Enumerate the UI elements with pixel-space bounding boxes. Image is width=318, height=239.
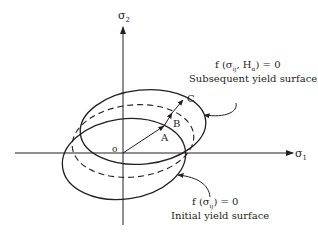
sigma1-label: σ1 [295, 147, 307, 162]
point-b-label: B [173, 118, 180, 129]
subsequent-equation: f (σij, Hα) = 0 [215, 59, 281, 73]
yield-surface-diagram: σ2 σ1 o A B C f (σij, Hα) = 0 Subsequent… [0, 0, 318, 239]
initial-leader [178, 175, 210, 197]
path-a-to-b [164, 113, 172, 126]
sigma2-label: σ2 [118, 9, 130, 24]
point-a-label: A [160, 132, 169, 143]
path-b-to-c [172, 100, 183, 113]
subsequent-caption: Subsequent yield surface [189, 73, 317, 84]
origin-label: o [112, 144, 117, 154]
intermediate-yield-surface [69, 99, 198, 183]
path-o-to-a [123, 126, 164, 153]
initial-equation: f (σij) = 0 [192, 196, 238, 210]
subsequent-leader [204, 103, 236, 116]
initial-caption: Initial yield surface [171, 210, 269, 221]
point-c-label: C [187, 93, 195, 104]
